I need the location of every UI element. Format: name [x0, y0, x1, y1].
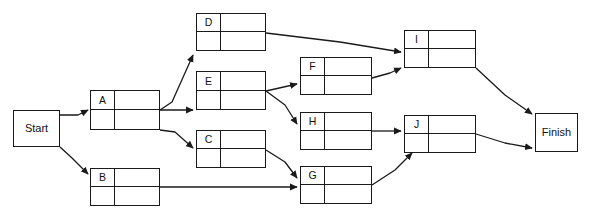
activity-cell-bottom-left-d: [197, 32, 221, 50]
activity-cell-top-right-b: [115, 169, 159, 187]
activity-cell-top-right-e: [221, 72, 265, 91]
activity-cell-top-right-i: [429, 31, 475, 49]
activity-cell-bottom-left-g: [301, 185, 325, 203]
terminal-node-start[interactable]: Start: [13, 110, 60, 147]
activity-node-j[interactable]: J: [404, 115, 476, 153]
terminal-label-finish: Finish: [542, 127, 571, 138]
activity-cell-bottom-right-b: [115, 187, 159, 205]
activity-cell-top-right-f: [325, 58, 371, 76]
activity-cell-bottom-right-f: [325, 76, 371, 94]
activity-cell-bottom-left-b: [91, 187, 115, 205]
activity-cell-bottom-right-i: [429, 49, 475, 67]
activity-cell-bottom-right-h: [325, 131, 371, 149]
activity-cell-top-right-g: [325, 167, 371, 185]
activity-network-diagram: StartFinishABDECFHGIJ: [0, 0, 594, 222]
activity-cell-bottom-left-c: [197, 149, 221, 167]
activity-node-h[interactable]: H: [300, 112, 372, 150]
activity-node-g[interactable]: G: [300, 166, 372, 204]
activity-node-d[interactable]: D: [196, 13, 266, 51]
activity-cell-bottom-right-d: [221, 32, 265, 50]
activity-cell-bottom-left-i: [405, 49, 429, 67]
activity-cell-bottom-left-a: [91, 110, 115, 129]
activity-node-i[interactable]: I: [404, 30, 476, 68]
activity-node-b[interactable]: B: [90, 168, 160, 206]
activity-cell-bottom-right-a: [115, 110, 159, 129]
activity-id-e: E: [197, 72, 221, 91]
activity-cell-top-right-a: [115, 91, 159, 110]
activity-cell-bottom-left-e: [197, 91, 221, 110]
activity-id-g: G: [301, 167, 325, 185]
activity-id-a: A: [91, 91, 115, 110]
activity-cell-top-right-h: [325, 113, 371, 131]
activity-cell-bottom-right-e: [221, 91, 265, 110]
activity-id-i: I: [405, 31, 429, 49]
activity-cell-bottom-right-j: [429, 134, 475, 152]
activity-node-c[interactable]: C: [196, 130, 266, 168]
activity-node-e[interactable]: E: [196, 71, 266, 110]
activity-cell-bottom-left-h: [301, 131, 325, 149]
activity-cell-bottom-right-c: [221, 149, 265, 167]
terminal-label-start: Start: [25, 123, 48, 134]
activity-id-b: B: [91, 169, 115, 187]
activity-id-h: H: [301, 113, 325, 131]
activity-cell-top-right-d: [221, 14, 265, 32]
activity-id-d: D: [197, 14, 221, 32]
node-layer: StartFinishABDECFHGIJ: [0, 0, 594, 222]
activity-id-j: J: [405, 116, 429, 134]
activity-cell-top-right-c: [221, 131, 265, 149]
activity-cell-bottom-left-f: [301, 76, 325, 94]
activity-node-f[interactable]: F: [300, 57, 372, 95]
activity-cell-top-right-j: [429, 116, 475, 134]
activity-id-f: F: [301, 58, 325, 76]
terminal-node-finish[interactable]: Finish: [535, 113, 578, 152]
activity-node-a[interactable]: A: [90, 90, 160, 130]
activity-cell-bottom-left-j: [405, 134, 429, 152]
activity-id-c: C: [197, 131, 221, 149]
activity-cell-bottom-right-g: [325, 185, 371, 203]
